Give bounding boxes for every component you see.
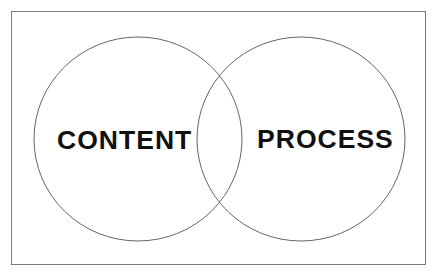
content-label: CONTENT <box>57 127 192 153</box>
process-label: PROCESS <box>257 126 394 152</box>
